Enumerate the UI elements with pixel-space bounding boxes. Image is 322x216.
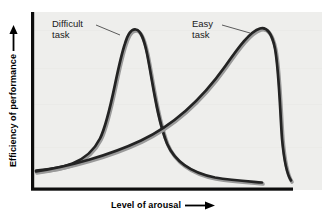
y-axis-title-wrapper: Efficiency of performance (0, 0, 26, 192)
x-axis-arrow-icon (185, 201, 215, 210)
chart-figure: Difficult task Easy task Efficiency of p… (0, 0, 322, 216)
y-axis-arrow-icon (9, 25, 18, 51)
y-axis-title-rotator: Efficiency of performance (8, 25, 18, 167)
y-axis-line (31, 12, 34, 190)
x-axis-title-wrapper: Level of arousal (33, 196, 293, 214)
y-axis-title: Efficiency of performance (8, 54, 18, 167)
annotation-easy-task: Easy task (192, 18, 213, 40)
x-axis-title: Level of arousal (111, 200, 181, 210)
annotation-difficult-task: Difficult task (52, 18, 83, 40)
chart-canvas (0, 0, 322, 216)
x-axis-line (31, 188, 293, 191)
